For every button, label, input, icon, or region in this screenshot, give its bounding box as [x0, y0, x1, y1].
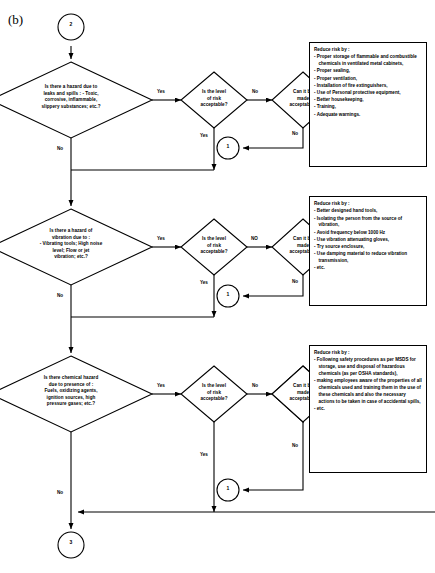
action-box-title: Reduce risk by : — [314, 47, 423, 54]
decision-line: pressure gases; etc.? — [16, 401, 126, 408]
edge-label-no-down-row1: No — [292, 131, 298, 136]
connector-circle-2: 2 — [62, 21, 80, 27]
action-item: Proper sealing, — [314, 68, 423, 75]
edge-label-no-question-row2: No — [57, 293, 63, 298]
decision-line: acceptable? — [188, 102, 240, 109]
edge-label-no-row3: No — [252, 383, 258, 388]
decision-hazard-vibration: Is there a hazard of vibration due to : … — [16, 228, 126, 261]
decision-risk-level-row1: Is the level of risk acceptable? — [188, 89, 240, 109]
decision-line: acceptable? — [188, 249, 240, 256]
edge-label-yes-down-row2: Yes — [200, 280, 208, 285]
action-box-list: Better designed hand tools, Isolating th… — [314, 208, 423, 272]
decision-risk-level-row2: Is the level of risk acceptable? — [188, 236, 240, 256]
edge-label-yes-row2: Yes — [157, 236, 165, 241]
connector-circle-1-row3: 1 — [219, 485, 237, 491]
action-item: Installation of fire extinguishers, — [314, 83, 423, 90]
decision-risk-level-row3: Is the level of risk acceptable? — [188, 383, 240, 403]
action-item: Use damping material to reduce vibration… — [314, 251, 423, 265]
edge-label-no-down-row3: No — [292, 443, 298, 448]
edge-label-yes-row1: Yes — [157, 89, 165, 94]
action-box-leaks-spills: Reduce risk by : Proper storage of flamm… — [309, 42, 427, 167]
action-item: Proper storage of flammable and combusti… — [314, 54, 423, 68]
edge-label-no-question-row3: No — [57, 490, 63, 495]
decision-line: acceptable? — [188, 396, 240, 403]
decision-chemical-hazard: Is there chemical hazard due to presence… — [16, 375, 126, 408]
decision-line: slippery substances; etc.? — [16, 104, 126, 111]
action-item: Try source enclosure, — [314, 244, 423, 251]
connector-circle-3: 3 — [62, 539, 80, 545]
action-item: Use vibration attenuating gloves, — [314, 237, 423, 244]
action-box-chemical: Reduce risk by : Following safety proced… — [309, 345, 427, 473]
action-item: Better designed hand tools, — [314, 208, 423, 215]
action-box-title: Reduce risk by : — [314, 201, 423, 208]
edge-label-no-question-row1: No — [57, 146, 63, 151]
edge-label-no-row2: NO — [251, 236, 258, 241]
connector-circle-1-row2: 1 — [219, 291, 237, 297]
figure-label: (b) — [8, 12, 23, 28]
edge-label-yes-down-row1: Yes — [200, 133, 208, 138]
action-item: etc. — [314, 265, 423, 272]
connector-circle-1-row1: 1 — [219, 143, 237, 149]
action-box-list: Proper storage of flammable and combusti… — [314, 54, 423, 118]
action-item: etc. — [314, 406, 423, 413]
decision-line: vibration; etc.? — [16, 254, 126, 261]
edge-label-yes-row3: Yes — [157, 383, 165, 388]
edge-label-yes-down-row3: Yes — [200, 452, 208, 457]
edge-label-no-row1: No — [252, 89, 258, 94]
edge-label-no-down-row2: No — [292, 279, 298, 284]
action-item: Following safety procedures as per MSDS … — [314, 357, 423, 378]
action-item: Adequate warnings. — [314, 112, 423, 119]
action-item: making employees aware of the properties… — [314, 378, 423, 406]
action-item: Training, — [314, 104, 423, 111]
decision-hazard-leaks-spills: Is there a hazard due to leaks and spill… — [16, 84, 126, 110]
action-item: Isolating the person from the source of … — [314, 216, 423, 230]
action-box-list: Following safety procedures as per MSDS … — [314, 357, 423, 413]
action-item: Proper ventilation, — [314, 76, 423, 83]
action-box-title: Reduce risk by : — [314, 350, 423, 357]
action-item: Avoid frequency below 1000 Hz — [314, 230, 423, 237]
action-item: Use of Personal protective equipment, — [314, 90, 423, 97]
action-item: Better housekeeping, — [314, 97, 423, 104]
flowchart-canvas: (b) 2 3 1 1 1 Is there a hazard due to l… — [0, 0, 435, 573]
action-box-vibration: Reduce risk by : Better designed hand to… — [309, 196, 427, 306]
